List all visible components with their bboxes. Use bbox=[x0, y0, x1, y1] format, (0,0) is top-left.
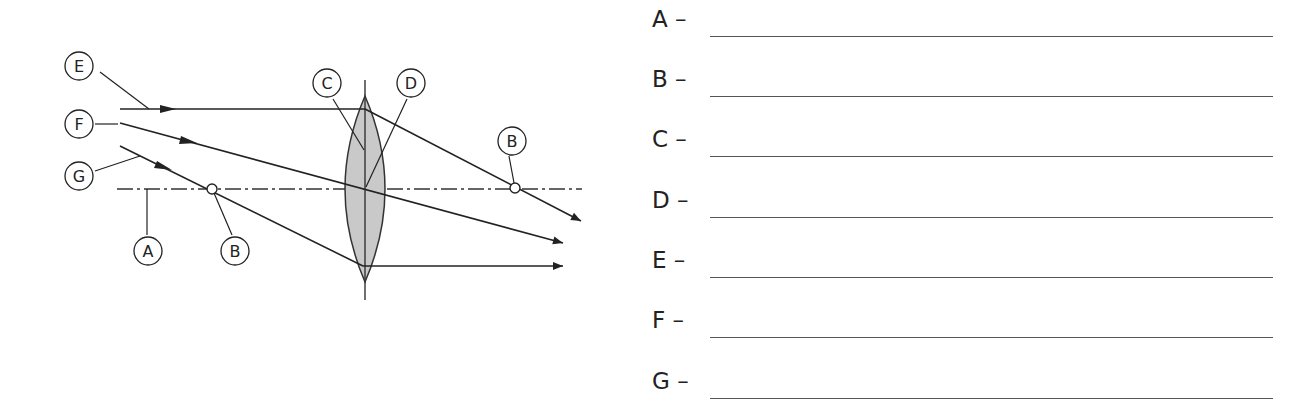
answer-label: G – bbox=[652, 366, 689, 396]
answer-label: B – bbox=[652, 64, 687, 94]
answer-line[interactable] bbox=[710, 96, 1273, 97]
answer-line[interactable] bbox=[710, 398, 1273, 399]
answer-row-b: B – bbox=[652, 64, 1277, 104]
answer-row-d: D – bbox=[652, 185, 1277, 225]
answer-label: E – bbox=[652, 245, 685, 275]
answer-label: D – bbox=[652, 185, 689, 215]
answer-label: F – bbox=[652, 305, 684, 335]
answer-line[interactable] bbox=[710, 337, 1273, 338]
answer-row-a: A – bbox=[652, 4, 1277, 44]
answer-row-e: E – bbox=[652, 245, 1277, 285]
answer-label: A – bbox=[652, 4, 687, 34]
answer-row-c: C – bbox=[652, 124, 1277, 164]
answer-row-f: F – bbox=[652, 305, 1277, 345]
answer-line[interactable] bbox=[710, 156, 1273, 157]
answer-line[interactable] bbox=[710, 277, 1273, 278]
answer-row-g: G – bbox=[652, 366, 1277, 403]
answer-line[interactable] bbox=[710, 36, 1273, 37]
answer-label: C – bbox=[652, 124, 687, 154]
answer-line[interactable] bbox=[710, 217, 1273, 218]
